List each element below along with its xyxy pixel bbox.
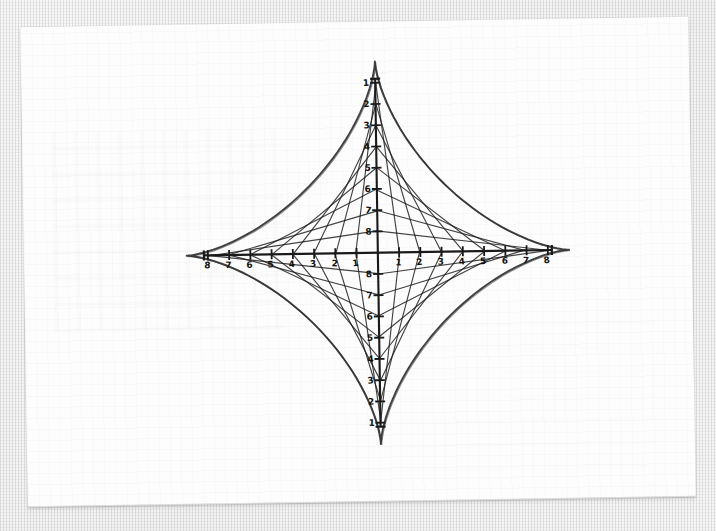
axis-tick-label: 2 xyxy=(416,257,423,268)
axis-tick-label: 5 xyxy=(480,256,487,266)
axis-tick-label: 7 xyxy=(225,260,232,270)
paper-sheet-container: 12345678123456788765432112345678 xyxy=(20,17,695,507)
astroid-drawing: 12345678123456788765432112345678 xyxy=(20,17,695,507)
axis-tick-label: 5 xyxy=(367,333,374,343)
string-line xyxy=(376,125,441,253)
axis-tick-label: 3 xyxy=(363,120,370,130)
axis-tick-label: 2 xyxy=(368,397,375,407)
axis-tick-label: 4 xyxy=(363,141,370,152)
string-line xyxy=(377,208,526,253)
string-line xyxy=(376,144,464,252)
axis-tick-label: 3 xyxy=(437,257,444,267)
axis-tick-label: 8 xyxy=(204,260,211,270)
axis-tick-label: 2 xyxy=(331,258,338,268)
axis-tick-label: 1 xyxy=(352,258,360,269)
axis-tick-label: 1 xyxy=(363,78,370,88)
axis-tick-label: 3 xyxy=(367,375,374,386)
axis-tick-label: 4 xyxy=(458,256,465,267)
string-line xyxy=(378,252,422,401)
axis-tick-label: 8 xyxy=(543,255,551,266)
axis-tick-label: 6 xyxy=(364,184,371,194)
axis-tick-label: 8 xyxy=(365,227,372,237)
axis-tick-label: 6 xyxy=(246,260,253,270)
axis-tick-label: 2 xyxy=(363,99,370,109)
axis-tick-label: 6 xyxy=(501,255,508,266)
string-line xyxy=(378,251,486,337)
axis-tick-label: 1 xyxy=(368,418,375,428)
string-line xyxy=(378,252,443,380)
axis-tick-label: 6 xyxy=(366,311,373,321)
string-line xyxy=(378,251,465,358)
axis-tick-label: 7 xyxy=(523,255,530,265)
axis-tick-label: 1 xyxy=(395,257,402,267)
string-art-figure: 12345678123456788765432112345678 xyxy=(20,17,695,507)
axis-tick-label: 5 xyxy=(364,163,370,173)
axis-tick-label: 5 xyxy=(267,259,274,270)
axis-tick-label: 8 xyxy=(365,269,372,280)
string-line xyxy=(271,253,379,339)
string-line xyxy=(270,168,378,255)
axis-tick-label: 7 xyxy=(365,205,372,216)
axis-tick-label: 3 xyxy=(310,258,317,268)
axis-tick-label: 4 xyxy=(288,259,295,270)
axis-tick-label: 4 xyxy=(367,354,374,364)
axis-tick-label: 7 xyxy=(366,290,373,300)
